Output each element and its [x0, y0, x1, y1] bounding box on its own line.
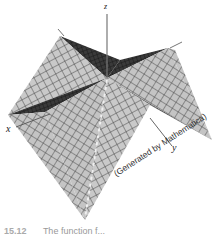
- z-axis-label: z: [104, 2, 107, 11]
- figure-caption: 15.12 The function f...: [4, 226, 105, 235]
- figure-number: 15.12: [4, 226, 27, 235]
- surface-plot: [0, 0, 221, 235]
- caption-text: The function f...: [43, 226, 105, 235]
- y-axis-label: y: [172, 142, 176, 153]
- axis-back-left: [58, 29, 64, 36]
- axis-back-right: [170, 42, 182, 48]
- x-axis-label: x: [6, 123, 10, 134]
